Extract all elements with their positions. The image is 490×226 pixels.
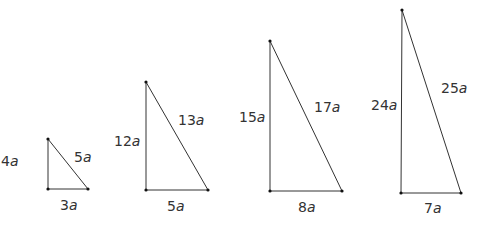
hypotenuse [270, 41, 342, 191]
vertex-top [144, 80, 147, 83]
label-variable: a [69, 197, 78, 213]
vertex-right-angle [46, 187, 49, 190]
triangle-7-24-25 [399, 8, 462, 194]
label-number: 5 [167, 198, 176, 214]
label-variable: a [433, 200, 442, 216]
label-t4-vertical: 24a [371, 98, 397, 112]
label-t1-hypotenuse: 5a [74, 150, 92, 164]
label-variable: a [332, 99, 341, 115]
vertex-bottom-right [459, 191, 462, 194]
hypotenuse [146, 82, 208, 190]
label-variable: a [132, 133, 141, 149]
vertex-right-angle [268, 189, 271, 192]
label-t2-hypotenuse: 13a [178, 113, 204, 127]
label-t3-hypotenuse: 17a [314, 100, 340, 114]
vertex-top [400, 8, 403, 11]
triangle-5-12-13 [144, 80, 209, 191]
label-number: 17 [314, 99, 332, 115]
label-t4-hypotenuse: 25a [441, 81, 467, 95]
label-number: 24 [371, 97, 389, 113]
label-t2-vertical: 12a [114, 134, 140, 148]
label-variable: a [389, 97, 398, 113]
label-variable: a [307, 199, 316, 215]
label-number: 8 [298, 199, 307, 215]
label-variable: a [176, 198, 185, 214]
label-t3-vertical: 15a [239, 110, 265, 124]
vertex-bottom-right [86, 187, 89, 190]
vertex-right-angle [144, 188, 147, 191]
label-t2-base: 5a [167, 199, 185, 213]
label-number: 25 [441, 80, 459, 96]
label-number: 12 [114, 133, 132, 149]
label-t3-base: 8a [298, 200, 316, 214]
label-variable: a [257, 109, 266, 125]
label-t4-base: 7a [424, 201, 442, 215]
label-number: 5 [74, 149, 83, 165]
vertex-right-angle [399, 191, 402, 194]
label-variable: a [10, 153, 19, 169]
label-number: 7 [424, 200, 433, 216]
vertex-top [46, 137, 49, 140]
label-variable: a [459, 80, 468, 96]
vertex-bottom-right [340, 189, 343, 192]
vertex-bottom-right [206, 188, 209, 191]
vertex-top [268, 39, 271, 42]
label-variable: a [83, 149, 92, 165]
label-number: 4 [1, 153, 10, 169]
hypotenuse [402, 10, 461, 193]
label-number: 13 [178, 112, 196, 128]
label-number: 15 [239, 109, 257, 125]
label-t1-base: 3a [60, 198, 78, 212]
label-number: 3 [60, 197, 69, 213]
triangle-8-15-17 [268, 39, 343, 192]
label-variable: a [196, 112, 205, 128]
label-t1-vertical: 4a [1, 154, 19, 168]
vertical-side [401, 10, 402, 193]
